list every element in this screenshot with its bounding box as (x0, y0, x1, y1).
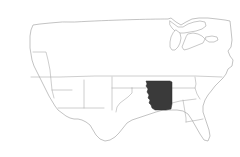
united-states-map: Map of the contiguous United States (0, 0, 240, 157)
map-figure: Map of the contiguous United States (0, 0, 240, 157)
great-lakes-ontario-path (206, 36, 218, 42)
